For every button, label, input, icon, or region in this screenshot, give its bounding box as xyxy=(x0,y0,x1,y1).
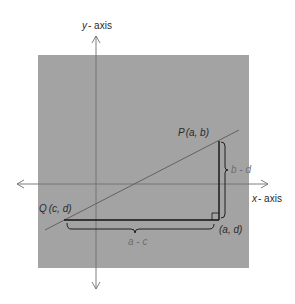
corner-point-label: (a, d) xyxy=(219,224,242,235)
x-axis-label: x- axis xyxy=(251,193,282,204)
vertical-brace-label: b - d xyxy=(231,164,251,175)
y-axis-label: y- axis xyxy=(81,20,112,31)
coordinate-diagram: y- axis x- axis b - d a - c P(a, b) Q(c,… xyxy=(0,0,295,304)
point-p-label: P(a, b) xyxy=(178,127,209,138)
point-q-label: Q(c, d) xyxy=(39,203,72,214)
horizontal-brace-label: a - c xyxy=(128,236,147,247)
